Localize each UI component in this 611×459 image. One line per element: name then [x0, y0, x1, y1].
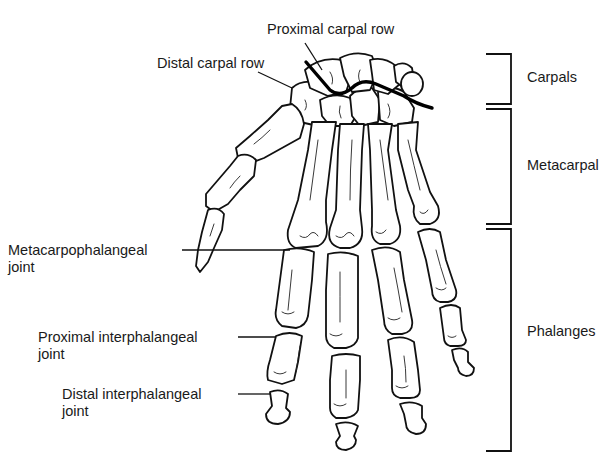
thumb-bones [196, 104, 304, 272]
label-metacarpophalangeal-joint: joint [7, 259, 35, 275]
label-metacarpophalangeal: Metacarpophalangeal [8, 242, 147, 258]
leader-distal-carpal-row [258, 72, 292, 88]
bracket-carpals [486, 54, 511, 104]
label-distal-interphalangeal-joint: joint [61, 403, 89, 419]
label-proximal-interphalangeal: Proximal interphalangeal [38, 329, 198, 345]
hand-skeleton-diagram: Proximal carpal row Distal carpal row Me… [0, 0, 611, 459]
bracket-phalanges [486, 229, 511, 451]
phalanx-bones [266, 229, 474, 450]
label-proximal-carpal-row: Proximal carpal row [267, 21, 395, 37]
label-phalanges: Phalanges [527, 323, 596, 339]
label-distal-interphalangeal: Distal interphalangeal [62, 386, 201, 402]
label-distal-carpal-row: Distal carpal row [157, 55, 265, 71]
label-carpals: Carpals [527, 69, 577, 85]
bracket-metacarpal [486, 109, 511, 224]
label-proximal-interphalangeal-joint: joint [37, 346, 65, 362]
label-metacarpal: Metacarpal [527, 157, 599, 173]
metacarpal-bones [288, 122, 439, 248]
